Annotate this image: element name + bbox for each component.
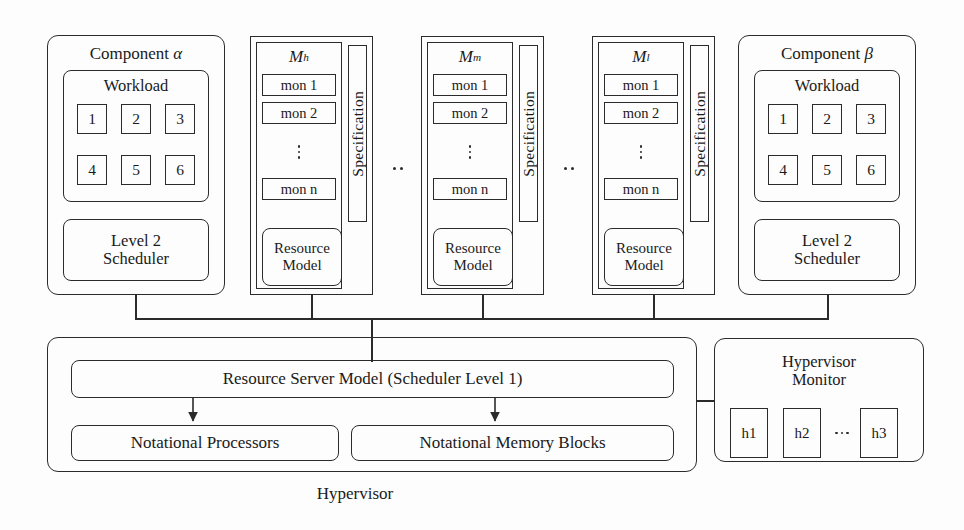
hypervisor-caption: Hypervisor [230, 482, 480, 506]
hypervisor-monitor-title-line-2: Monitor [792, 371, 846, 389]
diagram-canvas: Component α Workload 1 2 3 4 5 6 Level 2… [0, 0, 964, 530]
hypervisor-handle[interactable]: h3 [860, 408, 898, 458]
notational-memory-blocks-label: Notational Memory Blocks [351, 425, 674, 461]
hypervisor-handle[interactable]: h2 [783, 408, 821, 458]
hypervisor-monitor-title-line-1: Hypervisor [782, 353, 856, 371]
connector-hypervisor-to-monitor [697, 400, 715, 402]
hypervisor-handle[interactable]: h1 [730, 408, 768, 458]
notational-processors-label: Notational Processors [71, 425, 339, 461]
hypervisor-monitor-title: Hypervisor Monitor [714, 344, 924, 398]
hypervisor-handles-ellipsis-icon [826, 408, 858, 458]
